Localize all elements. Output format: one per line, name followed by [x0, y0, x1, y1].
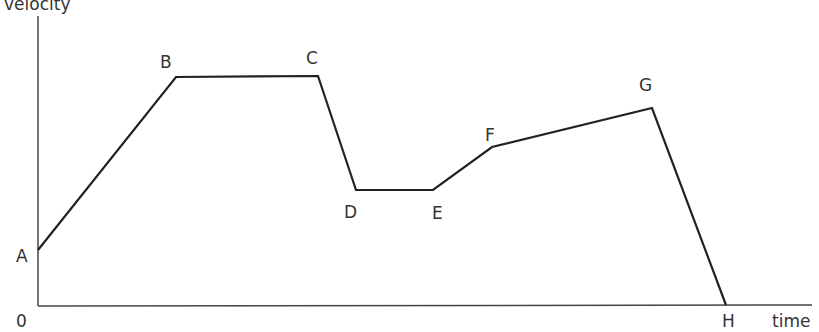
point-label-c: C: [306, 48, 318, 68]
velocity-time-graph: velocity time 0 A B C D E F G H: [0, 0, 819, 332]
origin-label: 0: [16, 311, 27, 331]
point-label-h: H: [722, 311, 735, 331]
point-label-a: A: [16, 246, 28, 266]
x-axis: [38, 305, 812, 306]
velocity-curve: [38, 76, 726, 305]
y-axis-label: velocity: [4, 0, 70, 14]
point-label-f: F: [485, 125, 495, 145]
point-label-g: G: [639, 75, 652, 95]
point-label-e: E: [432, 203, 443, 223]
point-label-d: D: [344, 202, 357, 222]
point-label-b: B: [160, 52, 172, 72]
x-axis-label: time: [772, 311, 810, 331]
